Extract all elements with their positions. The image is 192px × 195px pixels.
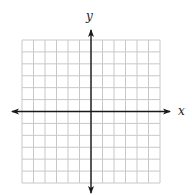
axes <box>11 29 171 194</box>
x-axis-label: x <box>178 104 185 118</box>
coordinate-plane: x y <box>0 0 192 195</box>
y-axis-label: y <box>85 9 93 23</box>
